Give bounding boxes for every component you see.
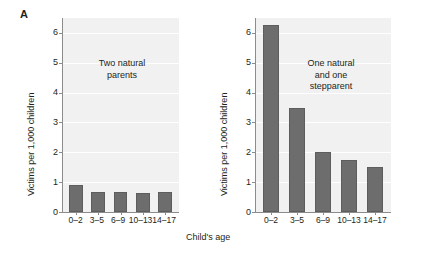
x-tick-mark [297, 212, 298, 215]
y-tick-label: 5 [38, 58, 58, 67]
y-tick-label: 2 [38, 148, 58, 157]
x-tick-label: 3–5 [284, 215, 310, 225]
annotation-left: Two natural parents [72, 58, 172, 81]
bar-slot [87, 18, 109, 212]
bar [158, 192, 172, 212]
x-tick-mark [121, 212, 122, 215]
bar-slot [336, 18, 362, 212]
y-axis-title-left: Victims per 1,000 children [26, 93, 36, 196]
annotation-right: One natural and one stepparent [276, 58, 386, 93]
chart-two-natural-parents: 0123456 Victims per 1,000 children 0–23–… [0, 0, 221, 259]
y-tick-label: 4 [231, 88, 251, 97]
x-tick-label: 0–2 [65, 215, 86, 225]
y-tick-label: 0 [231, 208, 251, 217]
x-tick-mark [165, 212, 166, 215]
x-tick-mark [323, 212, 324, 215]
x-axis-title: Child's age [186, 232, 230, 242]
x-tick-label: 3–5 [86, 215, 107, 225]
bar-group-left [62, 18, 179, 212]
x-tick-label: 6–9 [107, 215, 128, 225]
y-tick-label: 3 [231, 118, 251, 127]
x-tick-label: 0–2 [258, 215, 284, 225]
bar-slot [154, 18, 176, 212]
bar [341, 160, 357, 212]
chart-one-natural-one-stepparent: 0123456 Victims per 1,000 children 0–23–… [210, 0, 443, 259]
bar-slot [258, 18, 284, 212]
x-tick-mark [143, 212, 144, 215]
x-tick-mark [375, 212, 376, 215]
bar-slot [109, 18, 131, 212]
x-tick-mark [98, 212, 99, 215]
bar-group-right [255, 18, 391, 212]
bar [367, 167, 383, 212]
y-tick-label: 1 [38, 178, 58, 187]
x-tick-label: 14–17 [362, 215, 388, 225]
y-axis-title-right: Victims per 1,000 children [219, 93, 229, 196]
x-tick-mark [76, 212, 77, 215]
x-tick-label-group-right: 0–23–56–910–1314–17 [255, 215, 391, 225]
bar-slot [65, 18, 87, 212]
y-tick-mark [252, 212, 255, 213]
y-tick-label: 6 [38, 28, 58, 37]
bar-slot [132, 18, 154, 212]
x-tick-label: 10–13 [336, 215, 362, 225]
bar [136, 193, 150, 212]
y-tick-label: 5 [231, 58, 251, 67]
bar-slot [362, 18, 388, 212]
figure-panel-a: A 0123456 Victims per 1,000 children 0–2… [0, 0, 443, 259]
bar-slot [310, 18, 336, 212]
y-tick-label: 6 [231, 28, 251, 37]
bar [263, 25, 279, 212]
x-tick-label: 14–17 [152, 215, 176, 225]
bar [114, 192, 128, 212]
x-tick-label: 10–13 [129, 215, 153, 225]
y-tick-mark [59, 212, 62, 213]
bar [69, 185, 83, 212]
x-tick-label-group-left: 0–23–56–910–1314–17 [62, 215, 179, 225]
y-tick-label: 1 [231, 178, 251, 187]
bar [315, 152, 331, 212]
x-tick-mark [271, 212, 272, 215]
y-tick-label: 2 [231, 148, 251, 157]
x-tick-label: 6–9 [310, 215, 336, 225]
y-tick-label: 4 [38, 88, 58, 97]
bar [289, 108, 305, 212]
bar [91, 192, 105, 212]
x-tick-mark [349, 212, 350, 215]
y-tick-label: 0 [38, 208, 58, 217]
y-tick-label: 3 [38, 118, 58, 127]
bar-slot [284, 18, 310, 212]
